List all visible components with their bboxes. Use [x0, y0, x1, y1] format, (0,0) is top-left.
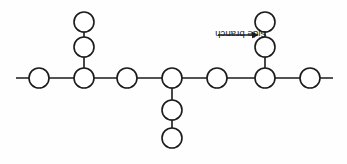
left-branch-node-1 [74, 37, 94, 57]
main-chain-node-3 [117, 68, 137, 88]
center-branch-node-2 [162, 128, 182, 148]
side-branch-annotation-group: Side branch [215, 29, 267, 40]
right-branch-node-2 [255, 12, 275, 32]
main-chain-node-5 [207, 68, 227, 88]
main-chain-node-7 [300, 68, 320, 88]
left-branch-node-2 [74, 12, 94, 32]
center-branch-node-1 [162, 100, 182, 120]
diagram-canvas: Side branch [0, 0, 347, 164]
main-chain-node-1 [29, 68, 49, 88]
main-chain-node-2 [74, 68, 94, 88]
branched-chain-figure: Side branch [0, 0, 347, 164]
side-branch-label: Side branch [215, 29, 267, 40]
main-chain-node-6 [255, 68, 275, 88]
main-chain-node-4 [162, 68, 182, 88]
